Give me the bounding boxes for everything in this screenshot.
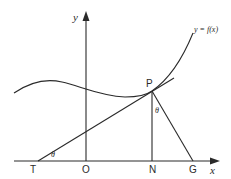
y-axis-label: y — [73, 12, 78, 23]
curve-f-of-x — [14, 33, 193, 97]
point-label-T: T — [30, 165, 36, 175]
normal-line-PG — [152, 91, 193, 161]
x-axis-label: x — [210, 165, 215, 176]
point-label-N: N — [149, 165, 156, 175]
angle-theta-at-T: θ — [51, 151, 55, 159]
curve-label: y = f(x) — [194, 26, 218, 34]
y-axis-arrow-icon — [83, 11, 90, 21]
point-label-P: P — [146, 79, 153, 89]
angle-theta-at-P: θ — [155, 107, 159, 115]
point-label-G: G — [189, 165, 197, 175]
point-label-O: O — [82, 165, 90, 175]
tangent-line — [38, 78, 174, 161]
